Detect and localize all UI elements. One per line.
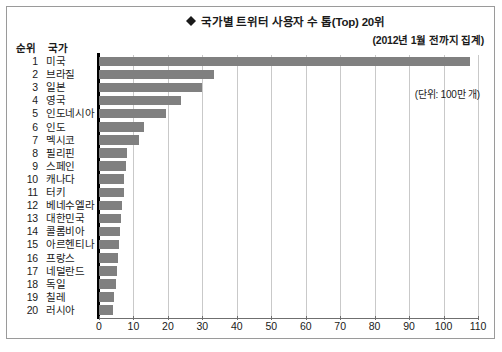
x-tick-label-20: 20 — [162, 320, 174, 332]
row-rank: 12 — [14, 199, 38, 212]
row-country-label: 스페인 — [46, 160, 75, 173]
table-row: 1미국 — [0, 55, 502, 68]
x-tick-label-90: 90 — [403, 320, 415, 332]
row-rank: 1 — [14, 55, 38, 68]
row-rank: 5 — [14, 107, 38, 120]
row-country-label: 칠레 — [46, 291, 65, 304]
chart-title: 국가별 트위터 사용자 수 톱(Top) 20위 — [201, 13, 385, 29]
table-row: 6인도 — [0, 121, 502, 134]
row-rank: 20 — [14, 304, 38, 317]
table-row: 10캐나다 — [0, 173, 502, 186]
x-tick-label-110: 110 — [470, 320, 487, 332]
bar — [99, 109, 166, 119]
x-tick-label-70: 70 — [334, 320, 346, 332]
bar — [99, 122, 144, 132]
row-rank: 13 — [14, 212, 38, 225]
x-axis-line — [99, 318, 478, 319]
x-tick-mark-60 — [306, 316, 307, 320]
column-header-country: 국가 — [48, 40, 68, 55]
row-rank: 18 — [14, 278, 38, 291]
table-row: 14콜롬비아 — [0, 225, 502, 238]
x-tick-mark-40 — [237, 316, 238, 320]
row-country-label: 브라질 — [46, 68, 75, 81]
row-rank: 3 — [14, 81, 38, 94]
table-row: 20러시아 — [0, 304, 502, 317]
row-country-label: 멕시코 — [46, 134, 75, 147]
x-tick-mark-30 — [202, 316, 203, 320]
table-row: 17네덜란드 — [0, 265, 502, 278]
table-row: 12베네수엘라 — [0, 199, 502, 212]
bar — [99, 148, 127, 158]
row-country-label: 러시아 — [46, 304, 75, 317]
row-rank: 15 — [14, 238, 38, 251]
table-row: 7멕시코 — [0, 134, 502, 147]
row-country-label: 대한민국 — [46, 212, 85, 225]
row-rank: 17 — [14, 265, 38, 278]
row-rank: 19 — [14, 291, 38, 304]
row-country-label: 인도 — [46, 121, 65, 134]
row-country-label: 터키 — [46, 186, 65, 199]
column-header-rank: 순위 — [16, 40, 36, 55]
bar — [99, 240, 119, 250]
x-tick-mark-80 — [375, 316, 376, 320]
row-country-label: 프랑스 — [46, 252, 75, 265]
bar — [99, 135, 139, 145]
bar — [99, 57, 470, 67]
x-tick-label-100: 100 — [435, 320, 453, 332]
row-rank: 2 — [14, 68, 38, 81]
x-axis-tick-labels: 0102030405060708090100110 — [0, 320, 502, 338]
table-row: 13대한민국 — [0, 212, 502, 225]
bar — [99, 214, 121, 224]
bar — [99, 161, 126, 171]
x-tick-mark-10 — [133, 316, 134, 320]
bar — [99, 70, 214, 80]
x-tick-mark-0 — [99, 316, 100, 320]
chart-subtitle: (2012년 1월 전까지 집계) — [372, 32, 484, 47]
table-row: 5인도네시아 — [0, 107, 502, 120]
unit-note: (단위: 100만 개) — [415, 86, 480, 101]
bar — [99, 279, 116, 289]
bar — [99, 305, 113, 315]
table-row: 2브라질 — [0, 68, 502, 81]
row-rank: 10 — [14, 173, 38, 186]
x-tick-label-0: 0 — [96, 320, 102, 332]
row-country-label: 아르헨티나 — [46, 238, 95, 251]
x-tick-mark-20 — [168, 316, 169, 320]
x-tick-label-10: 10 — [128, 320, 140, 332]
bar — [99, 83, 202, 93]
table-row: 9스페인 — [0, 160, 502, 173]
bar — [99, 188, 124, 198]
table-row: 19칠레 — [0, 291, 502, 304]
row-country-label: 일본 — [46, 81, 65, 94]
bar — [99, 227, 120, 237]
x-tick-label-50: 50 — [265, 320, 277, 332]
chart-title-row: 국가별 트위터 사용자 수 톱(Top) 20위 — [186, 13, 385, 29]
row-country-label: 영국 — [46, 94, 65, 107]
table-row: 11터키 — [0, 186, 502, 199]
bar — [99, 253, 118, 263]
x-tick-mark-100 — [444, 316, 445, 320]
table-row: 8필리핀 — [0, 147, 502, 160]
x-tick-label-80: 80 — [369, 320, 381, 332]
x-tick-mark-90 — [409, 316, 410, 320]
x-tick-label-60: 60 — [300, 320, 312, 332]
bar — [99, 266, 117, 276]
row-rank: 11 — [14, 186, 38, 199]
row-rank: 8 — [14, 147, 38, 160]
x-tick-mark-70 — [340, 316, 341, 320]
row-rank: 16 — [14, 252, 38, 265]
chart-figure: 국가별 트위터 사용자 수 톱(Top) 20위 (2012년 1월 전까지 집… — [0, 0, 502, 352]
row-rank: 7 — [14, 134, 38, 147]
table-row: 15아르헨티나 — [0, 238, 502, 251]
x-tick-label-30: 30 — [197, 320, 209, 332]
row-country-label: 필리핀 — [46, 147, 75, 160]
row-rank: 6 — [14, 121, 38, 134]
row-rank: 14 — [14, 225, 38, 238]
row-country-label: 네덜란드 — [46, 265, 85, 278]
row-country-label: 콜롬비아 — [46, 225, 85, 238]
bar — [99, 174, 124, 184]
row-country-label: 인도네시아 — [46, 107, 95, 120]
row-country-label: 베네수엘라 — [46, 199, 95, 212]
bar — [99, 292, 114, 302]
x-tick-label-40: 40 — [231, 320, 243, 332]
